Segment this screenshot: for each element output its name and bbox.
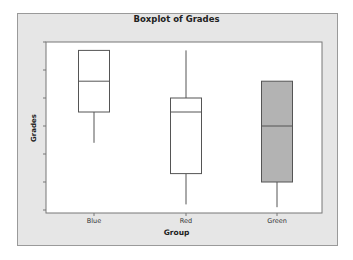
boxplot-area	[0, 0, 353, 260]
x-category-label-red: Red	[180, 217, 192, 225]
x-category-label-blue: Blue	[87, 217, 101, 225]
x-category-label-green: Green	[267, 217, 287, 225]
iqr-box	[262, 81, 293, 182]
iqr-box	[171, 98, 202, 174]
